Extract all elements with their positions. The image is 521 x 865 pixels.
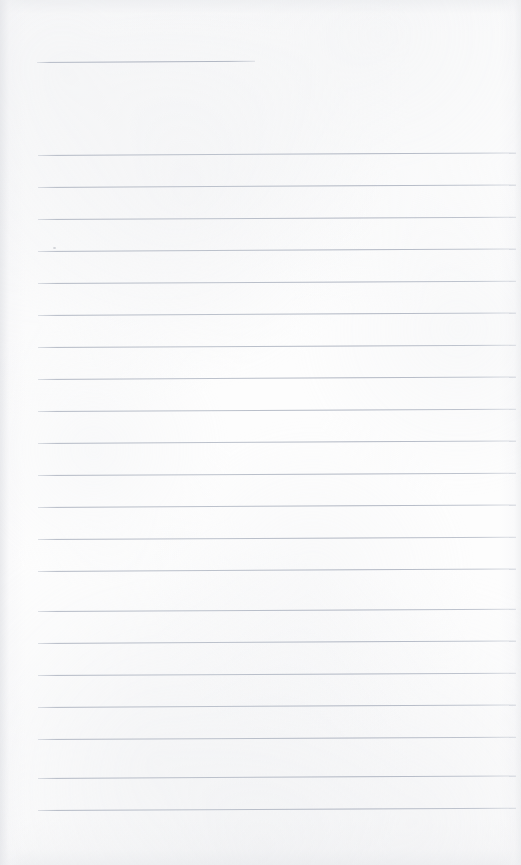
ruled-line <box>38 673 516 676</box>
ruled-line <box>38 568 516 572</box>
ruled-line <box>38 775 516 779</box>
ruled-line <box>38 281 516 284</box>
scanned-page <box>0 0 521 865</box>
ruled-line <box>38 609 516 612</box>
ruled-line <box>38 312 516 316</box>
ruled-line <box>38 184 516 188</box>
ruled-line <box>38 537 516 540</box>
ruled-line <box>38 704 516 708</box>
title-rule <box>37 61 255 63</box>
ruled-line <box>38 440 516 444</box>
ruled-line <box>38 217 516 220</box>
ruled-line <box>38 152 516 156</box>
ruled-line <box>38 473 516 476</box>
ruled-line <box>38 640 516 644</box>
ruled-line <box>38 504 516 508</box>
ruled-line <box>38 248 516 252</box>
ruled-line <box>38 737 516 740</box>
ruled-line <box>38 345 516 348</box>
ruled-line <box>38 808 516 811</box>
ruled-line <box>38 376 516 380</box>
ruled-lines-layer <box>0 0 521 865</box>
scan-speck <box>53 247 56 249</box>
ruled-line <box>38 409 516 412</box>
